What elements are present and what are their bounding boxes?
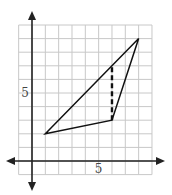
y-axis-down-arrow-icon (28, 182, 36, 191)
x-axis-right-arrow-icon (156, 157, 165, 165)
y-axis-up-arrow-icon (28, 11, 36, 20)
x-axis-left-arrow-icon (6, 157, 15, 165)
grid-lines (19, 25, 152, 175)
y-axis-tick-label-5: 5 (21, 86, 29, 100)
coordinate-plane-figure: 5 5 (0, 0, 172, 195)
triangle-shapes (45, 39, 138, 134)
x-axis-tick-label-5: 5 (95, 162, 103, 176)
triangle (45, 39, 138, 134)
